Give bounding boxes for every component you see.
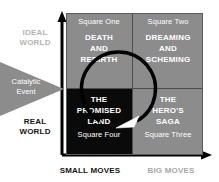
y-axis-label-line: REAL: [8, 117, 62, 127]
quadrant-square-three[interactable]: THE HERO'S SAGA Square Three: [133, 89, 203, 155]
quadrant-title-line: PROMISED: [77, 105, 121, 116]
catalytic-event-label: Catalytic Event: [0, 77, 52, 96]
quadrant-title: THE PROMISED LAND: [77, 94, 121, 127]
quadrant-title-line: THE: [77, 94, 121, 105]
quadrant-number-label: Square Two: [148, 18, 189, 26]
grid-horizontal-divider: [66, 88, 203, 89]
quadrant-title-line: REBIRTH: [81, 54, 118, 65]
quadrant-number-label: Square Four: [78, 131, 121, 139]
catalytic-event-marker[interactable]: Catalytic Event: [0, 62, 64, 116]
y-axis-label-line: IDEAL: [8, 28, 62, 38]
quadrant-number-label: Square Three: [145, 131, 192, 139]
quadrant-square-two[interactable]: Square Two DREAMING AND SCHEMING: [133, 13, 203, 88]
quadrant-square-four[interactable]: THE PROMISED LAND Square Four: [66, 89, 132, 155]
quadrant-title-line: DREAMING: [145, 32, 190, 43]
quadrant-title-line: AND: [145, 43, 190, 54]
quadrant-title-line: LAND: [77, 116, 121, 127]
quadrant-title: THE HERO'S SAGA: [152, 94, 184, 127]
quadrant-title-line: HERO'S: [152, 105, 184, 116]
quadrant-title: DEATH AND REBIRTH: [81, 32, 118, 65]
quadrant-title-line: AND: [81, 43, 118, 54]
y-axis-label-real-world: REAL WORLD: [8, 117, 62, 137]
y-axis-label-ideal-world: IDEAL WORLD: [8, 28, 62, 48]
diagram-canvas: Square One DEATH AND REBIRTH Square Two …: [0, 0, 219, 182]
quadrant-number-label: Square One: [78, 18, 119, 26]
quadrant-title-line: THE: [152, 94, 184, 105]
y-axis-label-line: WORLD: [8, 38, 62, 48]
quadrant-title: DREAMING AND SCHEMING: [145, 32, 190, 65]
quadrant-square-one[interactable]: Square One DEATH AND REBIRTH: [66, 13, 132, 88]
quadrant-title-line: SAGA: [152, 116, 184, 127]
quadrant-title-line: SCHEMING: [145, 54, 190, 65]
x-axis-label-small-moves: SMALL MOVES: [48, 166, 132, 176]
catalytic-event-line: Catalytic: [0, 77, 52, 87]
catalytic-event-line: Event: [0, 87, 52, 97]
y-axis-label-line: WORLD: [8, 127, 62, 137]
x-axis-label-big-moves: BIG MOVES: [134, 166, 208, 176]
grid-vertical-divider: [132, 13, 133, 155]
quadrant-grid: Square One DEATH AND REBIRTH Square Two …: [66, 13, 203, 155]
quadrant-title-line: DEATH: [81, 32, 118, 43]
